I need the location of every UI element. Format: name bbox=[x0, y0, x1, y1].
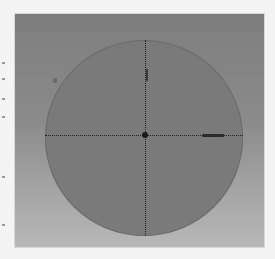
margin-tick bbox=[2, 62, 5, 64]
center-dot-icon[interactable] bbox=[142, 132, 148, 138]
north-tick-marker bbox=[146, 69, 148, 81]
margin-tick bbox=[2, 116, 5, 118]
left-margin-ticks bbox=[2, 0, 10, 259]
margin-tick bbox=[2, 224, 5, 226]
margin-tick bbox=[2, 98, 5, 100]
margin-tick bbox=[2, 78, 5, 80]
view-frame bbox=[15, 14, 264, 247]
side-marker bbox=[53, 78, 57, 83]
margin-tick bbox=[2, 176, 5, 178]
circular-view-area[interactable] bbox=[45, 40, 243, 236]
east-pointer-handle[interactable] bbox=[202, 134, 224, 137]
